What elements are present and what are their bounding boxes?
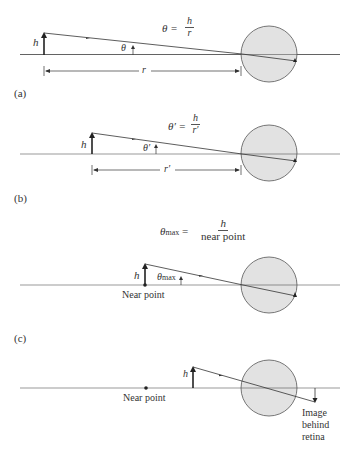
- panel-c-graphics: [20, 257, 340, 313]
- eye-circle: [241, 26, 297, 82]
- image-behind-retina-line3: retina: [302, 432, 325, 442]
- angle-label-c: θmax: [157, 272, 176, 282]
- panel-label-a: (a): [14, 88, 26, 99]
- panel-b-graphics: [20, 125, 340, 181]
- distance-label-b: r′: [164, 164, 170, 174]
- formula-b-numerator: h: [191, 113, 200, 125]
- formula-a: θ =: [162, 23, 178, 34]
- formula-c-equals: =: [182, 225, 188, 237]
- formula-b-fraction: h r′: [191, 113, 200, 135]
- formula-a-numerator: h: [185, 16, 194, 28]
- object-height-label-a: h: [33, 37, 39, 48]
- formula-a-fraction: h r: [185, 16, 194, 38]
- near-point-label-c: Near point: [122, 290, 165, 300]
- formula-c-subscript: max: [165, 228, 179, 237]
- panel-label-b: (b): [14, 193, 27, 204]
- object-height-label-b: h: [81, 139, 87, 150]
- formula-c-numerator: h: [218, 218, 228, 231]
- formula-c-denominator: near point: [201, 231, 245, 243]
- angle-label-a: θ: [121, 43, 126, 53]
- near-point-label-d: Near point: [123, 393, 166, 403]
- distance-label-a: r: [142, 65, 146, 75]
- formula-c-lhs: θmax =: [160, 226, 188, 237]
- eye-angular-magnification-figure: θ = h r h θ r (a) θ′ = h r′ h θ′ r′ (b) …: [0, 0, 358, 450]
- formula-b-denominator: r′: [192, 125, 198, 136]
- image-behind-retina-line2: behind: [302, 420, 329, 430]
- panel-d-graphics: [20, 360, 340, 416]
- image-behind-retina-line1: Image: [302, 408, 327, 418]
- formula-b: θ′ =: [168, 121, 186, 132]
- object-height-label-d: h: [183, 369, 188, 379]
- formula-c-fraction: h near point: [201, 218, 245, 242]
- object-height-label-c: h: [134, 270, 140, 281]
- angle-label-b: θ′: [143, 143, 150, 153]
- panel-a-graphics: [20, 26, 340, 82]
- formula-a-denominator: r: [188, 28, 192, 39]
- panel-label-c: (c): [14, 333, 26, 344]
- angle-c-subscript: max: [162, 273, 176, 282]
